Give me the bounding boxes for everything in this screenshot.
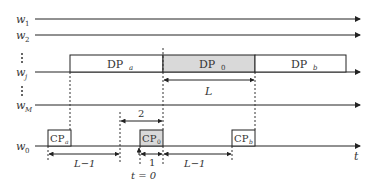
ellipsis-dots-lower xyxy=(21,86,23,96)
svg-text:0: 0 xyxy=(221,64,225,72)
svg-text:a: a xyxy=(65,138,69,145)
timing-diagram: w 1 w 2 w j w M w 0 DP a DP 0 xyxy=(0,0,378,182)
channel-label-wM: w M xyxy=(16,99,33,114)
ellipsis-dots-upper xyxy=(21,53,23,63)
svg-text:0: 0 xyxy=(157,138,161,145)
data-packet-a: DP a xyxy=(70,55,163,72)
svg-text:M: M xyxy=(24,106,33,114)
control-packet-0: CP 0 xyxy=(140,130,163,146)
svg-text:CP: CP xyxy=(50,133,65,144)
svg-text:DP: DP xyxy=(199,58,216,71)
channel-label-w0: w 0 xyxy=(16,140,29,155)
svg-text:L−1: L−1 xyxy=(183,158,205,169)
svg-text:0: 0 xyxy=(25,147,29,155)
svg-text:2: 2 xyxy=(25,36,29,44)
data-packet-b: DP b xyxy=(255,55,346,72)
dimension-1: 1 xyxy=(141,154,162,168)
svg-text:b: b xyxy=(313,64,318,72)
channel-label-w2: w 2 xyxy=(16,29,29,44)
svg-text:CP: CP xyxy=(234,133,249,144)
svg-text:2: 2 xyxy=(138,108,144,119)
svg-text:a: a xyxy=(129,64,133,72)
dimension-left-L-minus-1: L−1 xyxy=(49,154,119,169)
svg-text:CP: CP xyxy=(142,133,157,144)
svg-text:L−1: L−1 xyxy=(73,158,95,169)
svg-text:DP: DP xyxy=(291,58,308,71)
svg-text:1: 1 xyxy=(25,20,29,28)
control-packet-b: CP b xyxy=(232,130,255,146)
dimension-2: 2 xyxy=(121,108,162,121)
svg-text:b: b xyxy=(249,138,253,145)
control-packet-a: CP a xyxy=(48,130,71,146)
svg-text:t = 0: t = 0 xyxy=(131,170,157,181)
data-packet-0: DP 0 xyxy=(163,55,255,72)
svg-text:1: 1 xyxy=(149,157,155,168)
channel-label-wj: w j xyxy=(16,66,28,81)
dimension-L: L xyxy=(164,80,254,98)
time-axis-label: t xyxy=(354,150,359,163)
channel-label-w1: w 1 xyxy=(16,13,29,28)
dimension-right-L-minus-1: L−1 xyxy=(164,154,231,169)
svg-text:L: L xyxy=(204,85,212,98)
svg-text:DP: DP xyxy=(107,58,124,71)
